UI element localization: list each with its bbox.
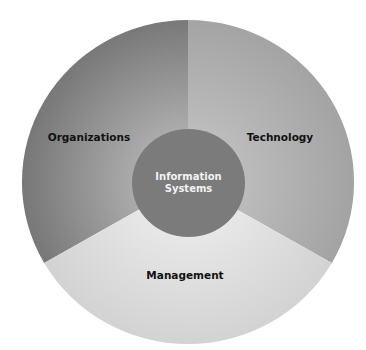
- label-management: Management: [146, 269, 223, 281]
- label-technology: Technology: [247, 131, 314, 143]
- label-organizations: Organizations: [48, 131, 131, 143]
- center-label-line2: Systems: [165, 183, 213, 194]
- center-label-line1: Information: [155, 171, 221, 182]
- information-systems-diagram: Organizations Technology Management Info…: [0, 0, 366, 350]
